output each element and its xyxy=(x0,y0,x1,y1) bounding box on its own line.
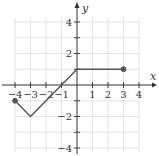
x-tick-label: −2 xyxy=(39,89,54,100)
x-axis-label: x xyxy=(150,70,157,83)
y-tick-label: 2 xyxy=(66,48,72,59)
x-tick-label: 2 xyxy=(105,89,111,100)
x-tick-label: 4 xyxy=(136,89,142,100)
y-tick-label: 4 xyxy=(66,17,72,28)
axes xyxy=(2,2,157,154)
y-axis-label: y xyxy=(81,2,89,15)
x-axis-arrow-icon xyxy=(152,83,157,88)
function-graph: −4−3−2−11234−4−224 x y xyxy=(0,0,159,156)
y-axis-arrow-icon xyxy=(75,2,80,8)
endpoint-dot-icon xyxy=(13,98,18,103)
x-tick-label: 1 xyxy=(89,89,95,100)
y-tick-label: −2 xyxy=(57,111,72,122)
endpoint-dot-icon xyxy=(121,67,126,72)
x-tick-label: 3 xyxy=(120,89,126,100)
x-tick-label: −3 xyxy=(23,89,38,100)
y-tick-label: −4 xyxy=(57,143,72,154)
